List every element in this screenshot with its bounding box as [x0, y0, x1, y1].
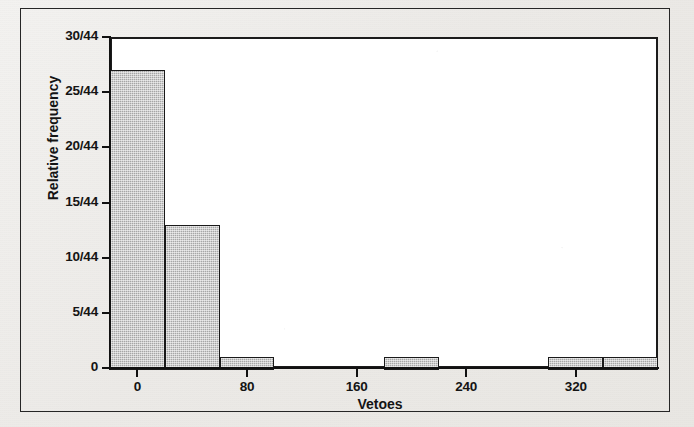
x-tick-mark	[136, 369, 138, 377]
figure-page: 05/4410/4415/4420/4425/4430/44 080160240…	[0, 0, 694, 427]
histogram-bar	[110, 70, 165, 370]
y-tick-mark	[102, 202, 110, 204]
y-tick-mark	[102, 146, 110, 148]
x-tick-label: 320	[546, 379, 606, 394]
x-tick-label: 0	[107, 379, 167, 394]
y-tick-mark	[102, 91, 110, 93]
y-tick-mark	[102, 367, 110, 369]
y-tick-mark	[102, 36, 110, 38]
y-tick-label: 10/44	[0, 249, 98, 264]
y-tick-label: 0	[0, 359, 98, 374]
y-axis-title: Relative frequency	[45, 38, 61, 238]
y-tick-label: 5/44	[0, 304, 98, 319]
y-tick-mark	[102, 312, 110, 314]
x-tick-mark	[356, 369, 358, 377]
x-tick-label: 80	[217, 379, 277, 394]
plot-area	[110, 37, 658, 368]
x-axis-title: Vetoes	[280, 396, 480, 412]
x-tick-mark	[465, 369, 467, 377]
x-tick-label: 240	[436, 379, 496, 394]
histogram-bar	[165, 225, 220, 370]
x-tick-label: 160	[327, 379, 387, 394]
x-tick-mark	[575, 369, 577, 377]
x-tick-mark	[246, 369, 248, 377]
y-tick-mark	[102, 257, 110, 259]
